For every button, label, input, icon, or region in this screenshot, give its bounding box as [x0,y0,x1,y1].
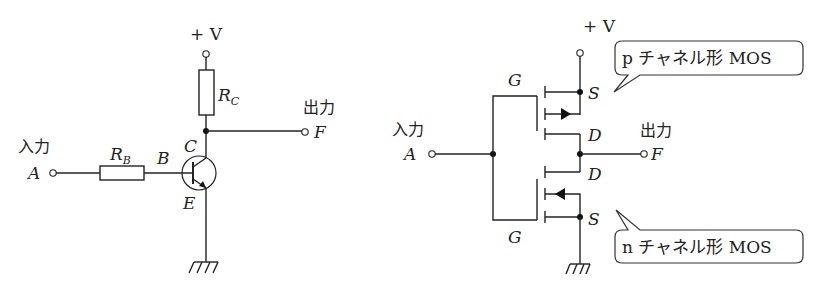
output-terminal [641,151,647,157]
collector-resistor [199,70,214,115]
input-terminal [50,170,56,176]
pmos-drain-label: D [587,125,602,145]
nmos-drain-label: D [587,164,602,184]
output-terminal [302,129,308,135]
collector-pin-label: C [184,136,197,156]
supply-terminal [203,51,209,57]
supply-terminal [577,50,583,56]
cmos-inverter-circuit: + V 入力 A G G S D F [392,16,803,274]
nmos-callout: n チャネル形 MOS [615,210,803,263]
pmos-source-node [577,89,583,95]
nmos-callout-text: n チャネル形 MOS [622,237,772,257]
base-pin-label: B [156,148,170,168]
emitter-pin-label: E [182,193,196,213]
pmos-transistor-icon [545,86,580,140]
input-terminal-label: A [26,163,40,183]
pmos-gate-label: G [508,70,522,90]
nmos-source-label: S [588,209,600,229]
ground-icon [566,264,590,274]
circuit-diagrams: + V RC F 出力 入力 A RB B C E [0,0,814,294]
input-label: 入力 [18,137,50,156]
ground-icon [189,262,218,273]
base-resistor [100,166,144,180]
pmos-callout: p チャネル形 MOS [614,41,803,92]
output-terminal-label: F [313,122,327,142]
input-terminal [429,151,435,157]
pmos-callout-text: p チャネル形 MOS [622,48,772,68]
nmos-gate-label: G [508,227,522,247]
input-label: 入力 [392,120,424,139]
nmos-transistor-icon [545,166,580,223]
pmos-source-label: S [588,83,600,103]
output-terminal-label: F [650,144,664,164]
supply-label: + V [190,24,223,44]
base-resistor-label: RB [109,144,131,167]
output-label: 出力 [303,98,335,117]
collector-resistor-label: RC [217,85,240,108]
supply-label: + V [583,16,616,36]
input-terminal-label: A [402,144,416,164]
bjt-inverter-circuit: + V RC F 出力 入力 A RB B C E [18,24,335,273]
output-label: 出力 [640,121,672,140]
